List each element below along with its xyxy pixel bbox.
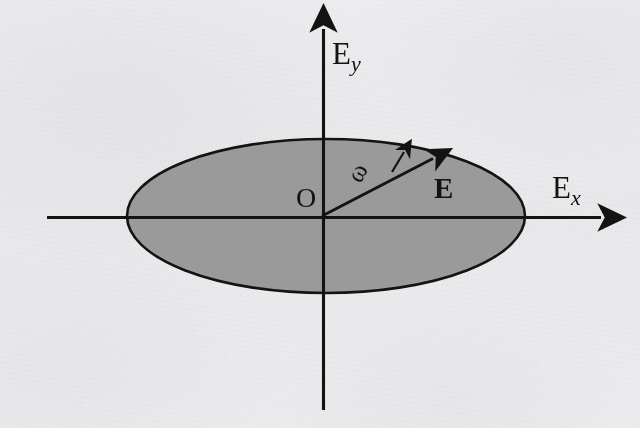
y-axis-label-subscript: y xyxy=(351,51,361,76)
field-vector-label: E xyxy=(434,174,453,203)
origin-label: O xyxy=(296,184,316,212)
x-axis-label-base: E xyxy=(552,170,571,205)
x-axis-label-subscript: x xyxy=(571,185,581,210)
polarization-ellipse-figure: Ey Ex O E ω xyxy=(0,0,640,428)
x-axis-label: Ex xyxy=(552,172,581,209)
y-axis-label: Ey xyxy=(332,38,361,75)
y-axis-label-base: E xyxy=(332,36,351,71)
diagram-canvas xyxy=(0,0,640,428)
